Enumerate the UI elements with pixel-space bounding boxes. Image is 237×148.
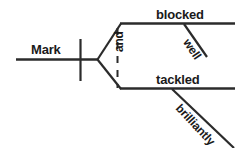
- subject-label: Mark: [31, 43, 61, 56]
- sentence-diagram: Mark blocked tackled and well brilliantl…: [0, 0, 237, 148]
- conjunction-label: and: [113, 31, 125, 52]
- lower-predicate-label: tackled: [156, 73, 199, 86]
- upper-predicate-label: blocked: [156, 8, 204, 21]
